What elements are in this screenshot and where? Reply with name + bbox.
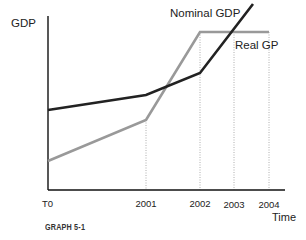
nominal-gdp-line — [48, 4, 253, 110]
figure-caption: GRAPH 5-1 — [45, 222, 85, 232]
x-tick-2002: 2002 — [189, 198, 210, 209]
y-axis-label: GDP — [11, 17, 36, 29]
vertical-guides — [146, 32, 269, 190]
x-tick-2001: 2001 — [135, 198, 156, 209]
series-label-real: Real GP — [235, 39, 279, 51]
x-axis-label: Time — [272, 211, 296, 223]
x-tick-2004: 2004 — [258, 199, 279, 210]
x-tick-2003: 2003 — [223, 199, 244, 210]
x-tick-t0: T0 — [42, 198, 53, 209]
real-gdp-line — [48, 32, 269, 161]
series-label-nominal: Nominal GDP — [170, 7, 241, 19]
gdp-line-chart: GDP Nominal GDP Real GP T0 2001 2002 200… — [0, 0, 306, 240]
